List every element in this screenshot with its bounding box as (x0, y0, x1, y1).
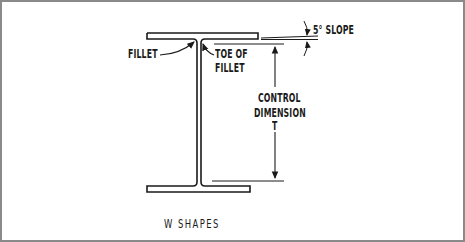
web (197, 43, 201, 182)
bottom-flange (147, 182, 250, 192)
toe-of-fillet-label-line1: TOE OF (215, 48, 248, 60)
toe-of-fillet-label-line2: FILLET (215, 62, 245, 74)
slope-label: 5° SLOPE (313, 24, 354, 36)
w-shape-drawing (2, 2, 465, 242)
control-dimension-label-line2: DIMENSION (254, 107, 306, 119)
control-dimension-label-line1: CONTROL (258, 92, 301, 104)
fillet-leader (160, 42, 194, 55)
top-flange (147, 33, 258, 43)
slope-angle-indicator (304, 21, 307, 56)
slope-reference-lines (214, 36, 318, 44)
toe-of-fillet-leader (203, 44, 214, 55)
diagram-frame: FILLET TOE OF FILLET 5° SLOPE CONTROL DI… (0, 0, 465, 242)
fillet-label: FILLET (128, 48, 158, 60)
control-dimension-symbol: T (272, 120, 277, 132)
diagram-title: W SHAPES (164, 217, 220, 230)
